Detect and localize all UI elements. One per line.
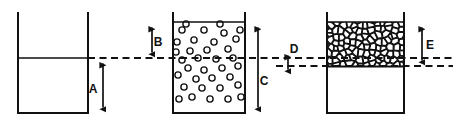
bed-grain — [325, 28, 333, 32]
particle — [187, 48, 193, 54]
particle — [219, 65, 225, 71]
particle — [235, 63, 241, 69]
bed-grain — [406, 51, 418, 62]
dimension-c-label: C — [260, 74, 269, 88]
bed-grain — [405, 27, 417, 34]
particle — [179, 27, 185, 33]
dimension-b-label: B — [154, 35, 163, 49]
bed-grain — [314, 33, 328, 39]
bed-grain — [332, 66, 338, 81]
particle — [235, 82, 241, 88]
bed-grain — [314, 20, 326, 34]
bed-grain — [337, 9, 344, 23]
particle — [221, 30, 227, 36]
bed-grain — [367, 8, 374, 23]
bed-grain — [314, 8, 328, 23]
bed-grain — [314, 66, 331, 81]
bed-grain — [394, 43, 400, 51]
dimension-e: E — [422, 28, 434, 61]
bed-grain — [328, 66, 333, 79]
particle — [207, 96, 213, 102]
dimension-a-label: A — [89, 82, 98, 96]
bed-grain — [350, 8, 358, 22]
particle — [227, 74, 233, 80]
bed-grain — [354, 70, 366, 81]
particle — [191, 37, 197, 43]
bed-grain — [398, 68, 407, 81]
bed-grain — [391, 67, 398, 80]
dimension-a: A — [89, 64, 103, 108]
diagram-canvas: ABCDE — [0, 0, 453, 124]
particle — [193, 76, 199, 82]
particle — [237, 27, 243, 33]
particle — [201, 27, 207, 33]
particle — [189, 94, 195, 100]
dimension-c: C — [258, 28, 269, 108]
bed-grain — [363, 68, 370, 80]
bed-grain — [314, 52, 327, 61]
bed-grain — [383, 70, 397, 81]
fluidized-bed-vessel — [172, 12, 246, 113]
bed-grain — [343, 67, 353, 81]
particle — [225, 46, 231, 52]
particle — [211, 39, 217, 45]
particle — [199, 85, 205, 91]
particle — [209, 75, 215, 81]
bed-grain — [375, 31, 382, 38]
particle — [185, 65, 191, 71]
bed-grain — [406, 42, 418, 50]
bed-grain — [314, 41, 327, 53]
particle — [174, 39, 180, 45]
empty-vessel — [17, 12, 89, 113]
bed-grain — [403, 34, 417, 41]
bed-grain — [386, 43, 393, 50]
bed-grain — [374, 20, 380, 26]
dimension-d-label: D — [290, 42, 299, 56]
particle — [204, 47, 210, 53]
bed-grain — [374, 68, 382, 81]
particle — [176, 96, 182, 102]
bed-grain — [369, 43, 376, 50]
bed-grain — [385, 8, 393, 22]
bed-grain — [339, 8, 352, 20]
bed-grain — [391, 8, 398, 22]
particle — [181, 84, 187, 90]
bed-grain — [399, 8, 417, 20]
bed-grain — [350, 39, 355, 45]
particle — [175, 72, 181, 78]
particle — [217, 85, 223, 91]
bed-grain — [405, 49, 413, 56]
particle — [201, 67, 207, 73]
bed-grain — [381, 8, 388, 22]
packed-bed-texture — [314, 8, 418, 81]
particle-layer — [173, 21, 244, 102]
particle — [238, 94, 244, 100]
particle — [225, 96, 231, 102]
bed-grain — [374, 8, 381, 23]
bed-expansion-diagram: ABCDE — [0, 0, 453, 124]
dimension-e-label: E — [426, 38, 434, 52]
bed-grain — [368, 66, 374, 80]
particle — [213, 56, 219, 62]
bed-grain — [405, 17, 417, 26]
bed-grain — [406, 38, 417, 44]
bed-grain — [358, 8, 370, 21]
packed-bed-vessel — [314, 8, 418, 113]
dimension-b: B — [152, 28, 163, 53]
bed-grain — [350, 66, 356, 80]
particle — [233, 36, 239, 42]
bed-grain — [337, 66, 343, 80]
